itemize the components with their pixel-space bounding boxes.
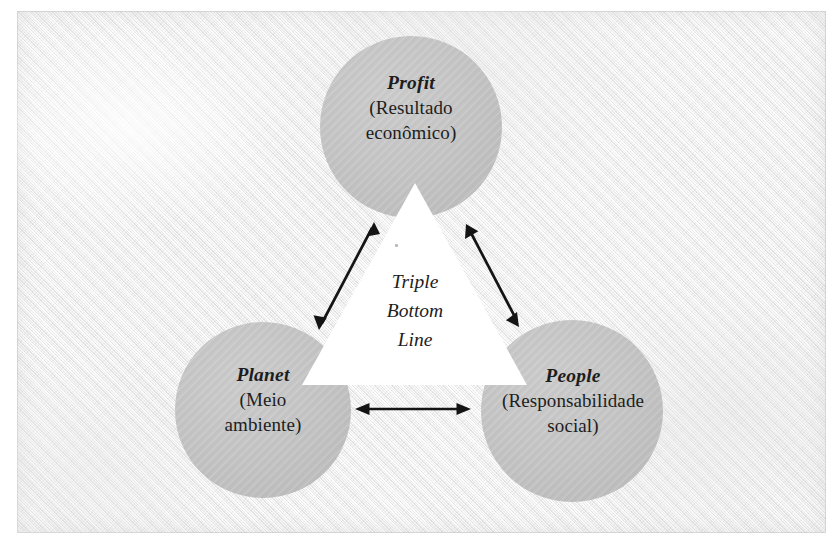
node-subtitle-people-line2: social) [502, 414, 644, 439]
diagram-scene: Profit (Resultado econômico) Planet (Mei… [0, 0, 840, 547]
center-label-line3: Line [387, 326, 443, 355]
center-label-triple-bottom-line: Triple Bottom Line [387, 268, 443, 355]
node-subtitle-planet-line2: ambiente) [225, 413, 302, 438]
node-subtitle-profit-line1: (Resultado [366, 96, 457, 121]
node-title-profit: Profit [366, 70, 457, 95]
center-label-line2: Bottom [387, 297, 443, 326]
node-subtitle-planet-line1: (Meio [225, 388, 302, 413]
node-title-planet: Planet [225, 362, 302, 387]
node-subtitle-people-line1: (Responsabilidade [502, 389, 644, 414]
node-label-profit: Profit (Resultado econômico) [366, 70, 457, 146]
node-label-planet: Planet (Meio ambiente) [225, 362, 302, 438]
arrow-planet-people [355, 403, 471, 415]
node-subtitle-profit-line2: econômico) [366, 121, 457, 146]
node-title-people: People [502, 363, 644, 388]
center-label-line1: Triple [387, 268, 443, 297]
scan-speck [395, 244, 398, 247]
node-label-people: People (Responsabilidade social) [502, 363, 644, 439]
